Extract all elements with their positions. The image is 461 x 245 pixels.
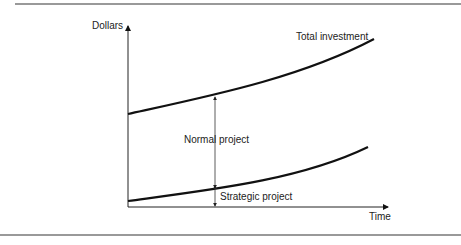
total-investment-label: Total investment: [296, 32, 368, 42]
x-axis-label: Time: [369, 212, 391, 222]
diagram-canvas: [0, 0, 461, 245]
total-investment-curve: [128, 39, 374, 114]
y-axis-label: Dollars: [92, 21, 123, 31]
strategic-project-label: Strategic project: [220, 192, 292, 202]
normal-project-label: Normal project: [184, 135, 249, 145]
